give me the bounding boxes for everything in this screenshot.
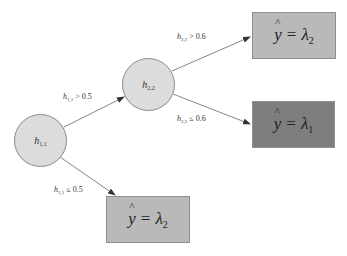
node-h22: h2,2 (122, 58, 175, 111)
lambda-symbol: λ (155, 209, 162, 228)
decision-tree-diagram: h1,1 h2,2 ^y=λ2 ^y=λ1 ^y=λ2 h1,1 > 0.5 h… (0, 0, 347, 256)
edge-sub: 2,2 (181, 119, 187, 124)
edge-condition: > 0.6 (189, 32, 206, 41)
lambda-sub: 2 (309, 35, 314, 46)
lambda-sub: 2 (163, 219, 168, 230)
leaf-bottom: ^y=λ2 (106, 196, 190, 243)
leaf-middle-formula: ^y=λ1 (274, 114, 314, 135)
equals-symbol: = (286, 114, 296, 133)
edge-condition: ≤ 0.5 (66, 185, 82, 194)
edge-condition: ≤ 0.6 (189, 114, 205, 123)
node-h22-label: h2,2 (142, 79, 155, 91)
hat-symbol: ^ (275, 105, 280, 117)
equals-symbol: = (287, 25, 297, 44)
node-sub: 2,2 (147, 85, 155, 91)
edge-label-h22-gt: h2,2 > 0.6 (177, 32, 206, 42)
lambda-sub: 1 (308, 124, 313, 135)
edge-label-h22-le: h2,2 ≤ 0.6 (177, 114, 206, 124)
hat-symbol: ^ (129, 200, 134, 212)
edge-label-h11-le: h1,1 ≤ 0.5 (54, 185, 83, 195)
edge-sub: 2,2 (181, 37, 187, 42)
edge-condition: > 0.5 (75, 92, 92, 101)
hat-symbol: ^ (275, 16, 280, 28)
leaf-top: ^y=λ2 (252, 12, 336, 59)
leaf-middle: ^y=λ1 (252, 101, 335, 148)
leaf-top-formula: ^y=λ2 (274, 25, 314, 46)
leaf-bottom-formula: ^y=λ2 (128, 209, 168, 230)
node-sub: 1,1 (39, 141, 47, 147)
edge-h22-to-leaf-top (172, 37, 250, 71)
edge-sub: 1,1 (67, 97, 73, 102)
edge-sub: 1,1 (58, 190, 64, 195)
node-h11-label: h1,1 (34, 135, 47, 147)
node-h11: h1,1 (14, 114, 67, 167)
equals-symbol: = (141, 209, 151, 228)
edge-label-h11-gt: h1,1 > 0.5 (63, 92, 92, 102)
lambda-symbol: λ (301, 25, 308, 44)
